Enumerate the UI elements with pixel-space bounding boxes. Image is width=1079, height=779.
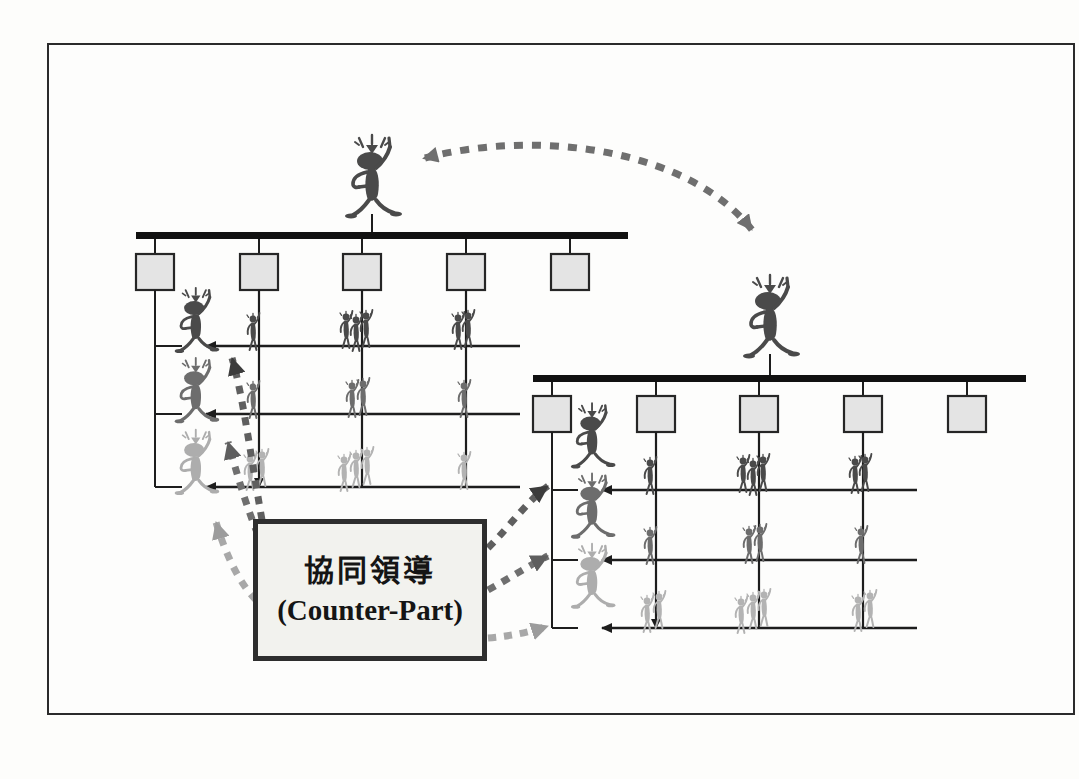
- boss-figure-left: [345, 135, 402, 219]
- department-boxes-right: [533, 396, 986, 432]
- department-box: [637, 396, 675, 432]
- department-box: [343, 254, 381, 290]
- left-organization: [136, 135, 628, 495]
- counter-part-title-en: (Counter-Part): [277, 593, 463, 627]
- manager-figure: [571, 544, 615, 609]
- top-bar-left: [136, 232, 628, 239]
- boss-to-boss-dashed-arrow: [425, 145, 752, 230]
- manager-figure: [175, 430, 219, 495]
- manager-figure: [571, 473, 615, 538]
- manager-figure: [571, 403, 615, 468]
- department-box: [240, 254, 278, 290]
- box-stems-left: [155, 239, 570, 254]
- department-box: [447, 254, 485, 290]
- department-box: [740, 396, 778, 432]
- manager-stubs-left: [155, 346, 182, 487]
- box-stems-right: [552, 382, 967, 396]
- diagram-artwork: [0, 0, 1079, 779]
- diagram-stage: 協同領導 (Counter-Part): [0, 0, 1079, 779]
- counter-part-title-cn: 協同領導: [304, 553, 436, 588]
- boss-figure-right: [743, 275, 800, 359]
- department-box: [844, 396, 882, 432]
- worker-groups-left: [244, 310, 474, 491]
- department-box: [551, 254, 589, 290]
- counterpart-links-right: [488, 486, 548, 638]
- top-bar-right: [533, 375, 1026, 382]
- counterpart-link: [488, 626, 548, 638]
- counterpart-link: [232, 358, 262, 520]
- department-box: [136, 254, 174, 290]
- counter-part-label-box: 協同領導 (Counter-Part): [253, 519, 487, 661]
- manager-figure: [175, 288, 219, 353]
- department-box: [948, 396, 986, 432]
- department-boxes-left: [136, 254, 589, 290]
- department-box: [533, 396, 571, 432]
- counterpart-link: [488, 486, 548, 548]
- counterpart-link: [216, 522, 256, 600]
- right-organization: [533, 275, 1026, 633]
- counterpart-link: [488, 556, 548, 590]
